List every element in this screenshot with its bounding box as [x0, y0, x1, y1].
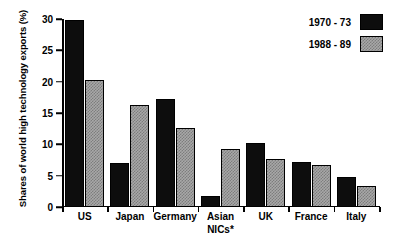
bar: [156, 99, 175, 207]
y-axis-tick: [56, 81, 62, 83]
x-axis-category-label: US: [78, 211, 92, 224]
bar-chart-figure: Shares of world high technology exports …: [0, 0, 395, 243]
bar: [176, 128, 195, 207]
y-axis-tick: [56, 175, 62, 177]
bar: [312, 165, 331, 207]
y-axis-title: Shares of world high technology exports …: [17, 9, 28, 209]
x-axis-tick: [62, 207, 64, 212]
x-axis-tick: [198, 207, 200, 212]
bar: [65, 20, 84, 207]
bar: [292, 162, 311, 207]
chart-legend: 1970 - 73 1988 - 89: [309, 14, 383, 52]
y-axis-tick-label: 0: [47, 202, 53, 213]
x-axis-tick: [243, 207, 245, 212]
y-axis-tick: [56, 50, 62, 52]
x-axis-tick: [334, 207, 336, 212]
bar: [201, 196, 220, 207]
bar-group: [65, 19, 104, 207]
y-axis-tick-label: 30: [42, 14, 53, 25]
y-axis-tick-label: 15: [42, 108, 53, 119]
bar: [357, 186, 376, 207]
x-axis-category-label: Italy: [346, 211, 366, 224]
x-axis-category-label: Japan: [115, 211, 144, 224]
bar-group: [246, 19, 285, 207]
bar-group: [201, 19, 240, 207]
bar: [85, 80, 104, 207]
bar: [266, 159, 285, 207]
y-axis-tick: [56, 18, 62, 20]
legend-item-series-a: 1970 - 73: [309, 14, 383, 30]
y-axis-tick-label: 5: [47, 170, 53, 181]
x-axis-category-label: France: [295, 211, 328, 224]
bar: [130, 105, 149, 207]
legend-item-series-b: 1988 - 89: [309, 36, 383, 52]
bar: [337, 177, 356, 207]
legend-label-series-a: 1970 - 73: [309, 17, 351, 28]
legend-label-series-b: 1988 - 89: [309, 39, 351, 50]
legend-swatch-series-b: [360, 36, 383, 52]
y-axis-tick: [56, 144, 62, 146]
bar: [246, 143, 265, 207]
bar-group: [156, 19, 195, 207]
x-axis-tick: [288, 207, 290, 212]
bar-group: [110, 19, 149, 207]
x-axis-tick: [107, 207, 109, 212]
y-axis-tick-label: 25: [42, 45, 53, 56]
y-axis-tick-label: 20: [42, 76, 53, 87]
y-axis-tick-label: 10: [42, 139, 53, 150]
x-axis-category-label: Germany: [154, 211, 197, 224]
x-axis-tick: [379, 207, 381, 212]
bar: [221, 149, 240, 207]
x-axis-category-label: UK: [259, 211, 273, 224]
y-axis-tick: [56, 112, 62, 114]
bar: [110, 163, 129, 207]
legend-swatch-series-a: [360, 14, 383, 30]
x-axis-category-label: Asian NICs*: [207, 211, 234, 236]
